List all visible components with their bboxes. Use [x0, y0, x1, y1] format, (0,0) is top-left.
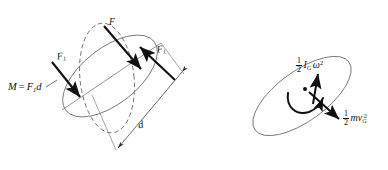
moment-distance-symbol: d	[36, 81, 41, 92]
force-F1-left-label: F1	[56, 51, 66, 63]
fraction-denominator: 2	[296, 66, 302, 74]
mass-symbol: m	[351, 112, 358, 123]
original-body-outline	[74, 20, 139, 135]
force-F-label: F	[109, 18, 115, 28]
force-F1-right-label: F1	[156, 44, 166, 56]
velocity-exponent: 2	[364, 112, 367, 119]
moment-equals: =	[19, 81, 25, 92]
force-F-symbol: F	[109, 17, 115, 27]
distance-d-dimension-arrow	[118, 72, 182, 148]
angular-velocity-curved-arrow	[288, 93, 323, 113]
omega-exponent: 2	[320, 59, 323, 66]
force-F-arrow	[104, 26, 141, 69]
translational-energy-label: 1 2 mvG2	[343, 110, 367, 127]
left-panel-group	[46, 19, 184, 150]
translational-energy-arrow	[309, 92, 339, 119]
displaced-body-outline	[49, 19, 172, 132]
one-half-fraction-rotational: 1 2	[296, 57, 302, 74]
dimension-extension-line-lower	[92, 95, 116, 150]
force-F1-arrow-left	[52, 62, 80, 97]
moment-symbol: M	[8, 81, 17, 92]
omega-symbol: ω	[313, 59, 320, 70]
one-half-fraction-translational: 1 2	[343, 110, 349, 127]
figure-vector-graphics	[0, 0, 388, 170]
moment-leader-line	[46, 80, 57, 87]
fraction-denominator: 2	[343, 119, 349, 127]
mass-center-point	[303, 87, 307, 91]
moment-label: M=F1d	[8, 82, 42, 93]
moment-of-inertia-subscript: G	[307, 64, 311, 71]
rotational-energy-label: 1 2 IGω2	[296, 57, 323, 74]
figure-canvas: M=F1d F F1 F1 d 1 2 IGω2 1 2 mvG2	[0, 0, 388, 170]
force-F1-left-subscript: 1	[63, 55, 67, 61]
force-F1-right-subscript: 1	[163, 48, 167, 54]
